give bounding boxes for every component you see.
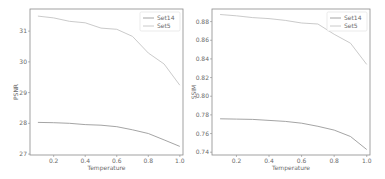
x-axis-label: Temperature	[271, 164, 310, 172]
legend: Set14Set5	[140, 12, 180, 31]
y-tick-label: 0.82	[196, 74, 210, 81]
y-tick-label: 0.80	[196, 92, 210, 99]
y-tick-label: 0.78	[196, 111, 210, 118]
legend-label: Set5	[157, 22, 171, 29]
series-line-set14	[220, 119, 367, 150]
chart-figure: 0.20.40.60.81.02728293031TemperaturePSNR…	[0, 0, 385, 179]
series-line-set14	[38, 122, 180, 146]
psnr-chart: 0.20.40.60.81.02728293031TemperaturePSNR…	[12, 9, 185, 172]
x-tick-label: 0.8	[144, 157, 154, 164]
y-tick-label: 0.86	[196, 36, 210, 43]
x-tick-label: 0.4	[80, 157, 90, 164]
y-tick-label: 30	[19, 58, 27, 65]
y-tick-label: 0.88	[196, 18, 210, 25]
legend: Set14Set5	[327, 12, 367, 31]
x-axis-label: Temperature	[86, 164, 125, 172]
y-tick-label: 31	[19, 27, 27, 34]
legend-label: Set14	[157, 14, 175, 21]
legend-label: Set14	[344, 14, 362, 21]
x-tick-label: 0.4	[264, 157, 274, 164]
y-tick-label: 28	[19, 119, 27, 126]
x-tick-label: 0.2	[232, 157, 242, 164]
x-tick-label: 0.6	[297, 157, 307, 164]
y-tick-label: 27	[19, 150, 27, 157]
ssim-chart: 0.20.40.60.81.00.740.760.780.800.820.840…	[190, 9, 372, 172]
x-tick-label: 0.2	[49, 157, 59, 164]
x-tick-label: 1.0	[362, 157, 372, 164]
y-tick-label: 29	[19, 89, 27, 96]
x-tick-label: 0.6	[112, 157, 122, 164]
legend-label: Set5	[344, 22, 358, 29]
y-axis-label: SSIM	[190, 85, 197, 100]
y-tick-label: 0.76	[196, 130, 210, 137]
y-tick-label: 0.74	[196, 148, 210, 155]
y-tick-label: 0.84	[196, 55, 210, 62]
y-axis-label: PSNR	[12, 84, 19, 100]
x-tick-label: 0.8	[329, 157, 339, 164]
x-tick-label: 1.0	[175, 157, 185, 164]
